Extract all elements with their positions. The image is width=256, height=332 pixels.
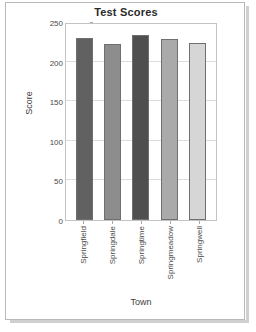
x-tick-label: Springmeadow bbox=[165, 226, 174, 279]
x-tick-mark bbox=[199, 221, 200, 224]
y-tick-label: 50 bbox=[37, 177, 63, 186]
bar[interactable] bbox=[76, 38, 93, 220]
y-tick-label: 100 bbox=[37, 137, 63, 146]
x-tick-label: Springtime bbox=[136, 226, 145, 264]
y-tick-label: 150 bbox=[37, 98, 63, 107]
y-tick-label: 250 bbox=[37, 19, 63, 28]
x-tick-mark bbox=[83, 221, 84, 224]
bar[interactable] bbox=[104, 44, 121, 220]
bar[interactable] bbox=[189, 43, 206, 220]
page-edge-shadow-right bbox=[246, 6, 249, 323]
x-tick-slot: Springtime bbox=[132, 222, 149, 294]
y-tick-label: 0 bbox=[37, 217, 63, 226]
page-edge-shadow-bottom bbox=[10, 320, 249, 323]
plot-area bbox=[65, 23, 217, 221]
bar[interactable] bbox=[161, 39, 178, 220]
x-tick-mark bbox=[112, 221, 113, 224]
x-tick-slot: Springwell bbox=[190, 222, 207, 294]
x-tick-label: Springdale bbox=[108, 226, 117, 264]
y-axis-ticks: 050100150200250 bbox=[33, 23, 63, 221]
x-tick-slot: Springmeadow bbox=[161, 222, 178, 294]
x-axis-ticks: SpringfieldSpringdaleSpringtimeSpringmea… bbox=[65, 222, 217, 294]
y-tick-label: 200 bbox=[37, 58, 63, 67]
x-tick-slot: Springfield bbox=[75, 222, 92, 294]
bar-series bbox=[66, 24, 216, 220]
x-axis-title: Town bbox=[65, 297, 217, 307]
bar[interactable] bbox=[132, 35, 149, 220]
chart-frame: Test Scores Score 050100150200250 Spring… bbox=[5, 2, 245, 320]
x-tick-label: Springwell bbox=[194, 226, 203, 263]
x-tick-label: Springfield bbox=[79, 226, 88, 264]
chart-title: Test Scores bbox=[6, 6, 246, 18]
x-tick-slot: Springdale bbox=[104, 222, 121, 294]
x-tick-mark bbox=[141, 221, 142, 224]
x-tick-mark bbox=[170, 221, 171, 224]
